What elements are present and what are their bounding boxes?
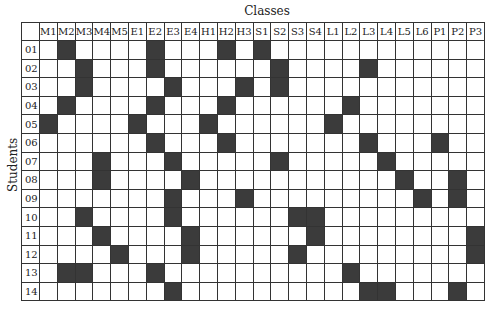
grid-body: 0102030405060708091011121314: [22, 41, 485, 301]
empty-cell: [289, 115, 307, 134]
empty-cell: [395, 96, 413, 115]
empty-cell: [449, 208, 467, 227]
row-label: 04: [22, 96, 40, 115]
empty-cell: [75, 41, 93, 60]
column-header: S3: [289, 23, 307, 41]
empty-cell: [111, 133, 129, 152]
empty-cell: [182, 208, 200, 227]
filled-cell: [93, 226, 111, 245]
empty-cell: [324, 41, 342, 60]
empty-cell: [146, 226, 164, 245]
empty-cell: [200, 96, 218, 115]
empty-cell: [431, 59, 449, 78]
empty-cell: [360, 189, 378, 208]
table-row: 10: [22, 208, 485, 227]
empty-cell: [164, 41, 182, 60]
empty-cell: [271, 96, 289, 115]
empty-cell: [93, 115, 111, 134]
empty-cell: [40, 41, 58, 60]
empty-cell: [324, 133, 342, 152]
column-header: H2: [217, 23, 235, 41]
empty-cell: [182, 96, 200, 115]
empty-cell: [360, 78, 378, 97]
empty-cell: [449, 78, 467, 97]
empty-cell: [449, 226, 467, 245]
filled-cell: [217, 41, 235, 60]
empty-cell: [128, 245, 146, 264]
filled-cell: [271, 78, 289, 97]
empty-cell: [378, 226, 396, 245]
filled-cell: [449, 282, 467, 301]
empty-cell: [93, 264, 111, 283]
empty-cell: [449, 96, 467, 115]
empty-cell: [324, 59, 342, 78]
empty-cell: [467, 78, 485, 97]
empty-cell: [182, 189, 200, 208]
filled-cell: [164, 282, 182, 301]
column-header: P2: [449, 23, 467, 41]
assignment-grid: M1M2M3M4M5E1E2E3E4H1H2H3S1S2S3S4L1L2L3L4…: [21, 22, 485, 301]
empty-cell: [271, 208, 289, 227]
empty-cell: [200, 245, 218, 264]
empty-cell: [378, 189, 396, 208]
empty-cell: [395, 59, 413, 78]
empty-cell: [40, 226, 58, 245]
filled-cell: [57, 41, 75, 60]
empty-cell: [111, 264, 129, 283]
empty-cell: [75, 115, 93, 134]
filled-cell: [146, 41, 164, 60]
empty-cell: [413, 245, 431, 264]
column-header: M1: [40, 23, 58, 41]
empty-cell: [93, 282, 111, 301]
empty-cell: [449, 133, 467, 152]
empty-cell: [413, 226, 431, 245]
filled-cell: [449, 171, 467, 190]
empty-cell: [75, 152, 93, 171]
empty-cell: [253, 59, 271, 78]
filled-cell: [271, 152, 289, 171]
filled-cell: [146, 59, 164, 78]
empty-cell: [111, 115, 129, 134]
empty-cell: [182, 59, 200, 78]
empty-cell: [128, 41, 146, 60]
filled-cell: [342, 264, 360, 283]
empty-cell: [164, 171, 182, 190]
empty-cell: [235, 208, 253, 227]
filled-cell: [146, 133, 164, 152]
column-header: E2: [146, 23, 164, 41]
empty-cell: [235, 264, 253, 283]
column-header: L2: [342, 23, 360, 41]
empty-cell: [182, 78, 200, 97]
empty-cell: [200, 208, 218, 227]
empty-cell: [360, 245, 378, 264]
empty-cell: [306, 41, 324, 60]
empty-cell: [253, 152, 271, 171]
empty-cell: [271, 245, 289, 264]
empty-cell: [449, 41, 467, 60]
empty-cell: [395, 226, 413, 245]
empty-cell: [253, 115, 271, 134]
empty-cell: [75, 226, 93, 245]
empty-cell: [75, 282, 93, 301]
row-label: 01: [22, 41, 40, 60]
empty-cell: [235, 282, 253, 301]
empty-cell: [217, 59, 235, 78]
empty-cell: [217, 78, 235, 97]
empty-cell: [431, 264, 449, 283]
empty-cell: [324, 208, 342, 227]
column-header: H3: [235, 23, 253, 41]
empty-cell: [289, 226, 307, 245]
empty-cell: [289, 189, 307, 208]
empty-cell: [431, 226, 449, 245]
empty-cell: [146, 152, 164, 171]
filled-cell: [467, 245, 485, 264]
empty-cell: [413, 115, 431, 134]
table-row: 09: [22, 189, 485, 208]
empty-cell: [378, 133, 396, 152]
empty-cell: [128, 282, 146, 301]
empty-cell: [324, 152, 342, 171]
empty-cell: [413, 171, 431, 190]
empty-cell: [395, 152, 413, 171]
empty-cell: [413, 96, 431, 115]
row-label: 14: [22, 282, 40, 301]
